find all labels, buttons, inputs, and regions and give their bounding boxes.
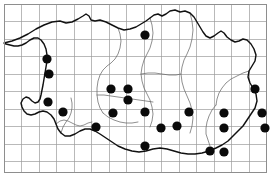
record-dot (123, 95, 132, 104)
record-dot (123, 84, 132, 93)
record-dot (219, 123, 228, 132)
record-dot (172, 121, 181, 130)
record-dot (140, 141, 149, 150)
record-dot (106, 84, 115, 93)
record-dot (260, 123, 269, 132)
record-dot (257, 108, 266, 117)
record-dot-layer (42, 30, 269, 156)
distribution-map-figure (0, 0, 272, 180)
inner-boundary-path (216, 71, 249, 105)
inner-boundary-path (206, 105, 216, 146)
record-dot (140, 107, 149, 116)
record-dot (44, 69, 53, 78)
grid-overlay (4, 4, 266, 172)
record-dot (91, 122, 100, 131)
record-dot (140, 30, 149, 39)
record-dot (250, 84, 259, 93)
map-frame-border (4, 4, 266, 172)
coastline-path (4, 10, 257, 154)
inner-boundary-path (103, 113, 138, 123)
record-dot (205, 146, 214, 155)
record-dot (108, 108, 117, 117)
record-dot (219, 147, 228, 156)
record-dot (184, 107, 193, 116)
record-dot (219, 108, 228, 117)
record-dot (43, 97, 52, 106)
record-dot (42, 54, 51, 63)
record-dot (58, 107, 67, 116)
map-canvas (0, 0, 272, 180)
record-dot (156, 123, 165, 132)
